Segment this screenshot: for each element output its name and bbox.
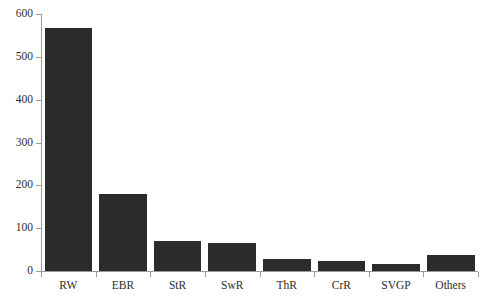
x-axis-tick bbox=[369, 272, 370, 277]
x-axis-label-thr: ThR bbox=[260, 280, 315, 292]
bar-swr[interactable] bbox=[208, 243, 256, 271]
x-axis-tick bbox=[423, 272, 424, 277]
x-axis-label-svgp: SVGP bbox=[369, 280, 424, 292]
x-axis-tick bbox=[96, 272, 97, 277]
bar-rw[interactable] bbox=[45, 28, 93, 271]
x-axis-tick bbox=[41, 272, 42, 277]
bar-others[interactable] bbox=[427, 255, 475, 271]
x-axis-tick bbox=[478, 272, 479, 277]
bar-thr[interactable] bbox=[263, 259, 311, 271]
x-axis-label-others: Others bbox=[423, 280, 478, 292]
bar-svgp[interactable] bbox=[372, 264, 420, 271]
x-axis-label-rw: RW bbox=[41, 280, 96, 292]
bar-crr[interactable] bbox=[318, 261, 366, 271]
x-axis-label-str: StR bbox=[150, 280, 205, 292]
bar-ebr[interactable] bbox=[99, 194, 147, 271]
bars-layer bbox=[0, 0, 482, 271]
x-axis-tick bbox=[260, 272, 261, 277]
x-axis-tick bbox=[314, 272, 315, 277]
x-axis-tick bbox=[150, 272, 151, 277]
x-axis-label-swr: SwR bbox=[205, 280, 260, 292]
x-axis-label-crr: CrR bbox=[314, 280, 369, 292]
x-axis-label-ebr: EBR bbox=[96, 280, 151, 292]
bar-str[interactable] bbox=[154, 241, 202, 271]
bar-chart: 0100200300400500600 RWEBRStRSwRThRCrRSVG… bbox=[0, 0, 482, 307]
x-axis-tick bbox=[205, 272, 206, 277]
